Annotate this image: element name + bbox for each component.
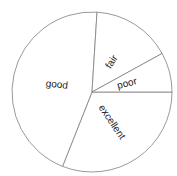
pie-chart: excellentgoodfairpoor (0, 0, 177, 176)
pie-label-good: good (45, 78, 68, 91)
pie-slices (12, 12, 172, 172)
